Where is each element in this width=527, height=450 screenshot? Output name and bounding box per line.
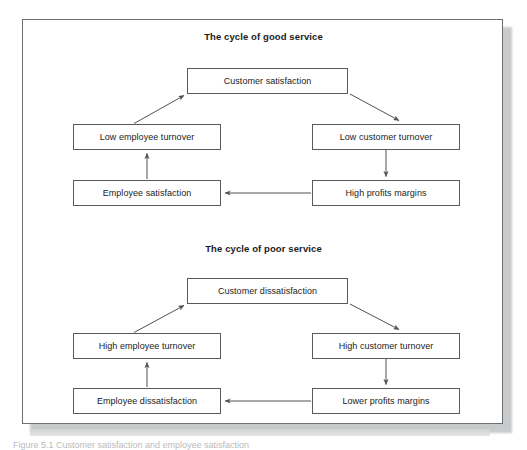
node-customer-satisfaction: Customer satisfaction (187, 68, 348, 94)
node-low-customer-turnover: Low customer turnover (312, 124, 460, 150)
node-employee-dissatisfaction: Employee dissatisfaction (73, 388, 221, 414)
node-high-profits-margins: High profits margins (312, 180, 460, 206)
figure-caption: Figure 5.1 Customer satisfaction and emp… (13, 440, 249, 450)
node-high-customer-turnover: High customer turnover (312, 333, 460, 359)
node-high-employee-turnover: High employee turnover (73, 333, 221, 359)
node-lower-profits-margins: Lower profits margins (312, 388, 460, 414)
node-low-employee-turnover: Low employee turnover (73, 124, 221, 150)
node-employee-satisfaction: Employee satisfaction (73, 180, 221, 206)
node-customer-dissatisfaction: Customer dissatisfaction (187, 278, 348, 304)
cycle-title-good-service: The cycle of good service (0, 31, 527, 42)
caption-scan-band (30, 429, 490, 436)
cycle-title-poor-service: The cycle of poor service (0, 243, 527, 254)
